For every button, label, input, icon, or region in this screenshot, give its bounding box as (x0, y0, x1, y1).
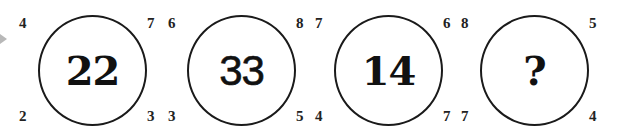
bottom-left-number: 7 (461, 109, 469, 124)
top-right-number: 8 (296, 16, 304, 31)
top-right-number: 7 (147, 16, 155, 31)
bottom-right-number: 7 (443, 109, 451, 124)
triangle-right-icon (0, 34, 7, 44)
top-left-number: 4 (19, 16, 27, 31)
circle-4: 8 5 ? 7 4 (461, 0, 611, 139)
top-right-number: 5 (589, 16, 597, 31)
bottom-left-number: 2 (19, 109, 27, 124)
center-number: 14 (334, 15, 443, 126)
number-circle-puzzle: 4 7 22 2 3 6 8 33 3 5 7 6 14 4 7 8 5 ? 7… (0, 0, 619, 139)
center-number: 33 (187, 15, 296, 126)
center-number: 22 (38, 15, 147, 126)
circle-2: 6 8 33 3 5 (168, 0, 318, 139)
top-right-number: 6 (443, 16, 451, 31)
bottom-left-number: 4 (315, 109, 323, 124)
bottom-right-number: 3 (147, 109, 155, 124)
bottom-right-number: 4 (589, 109, 597, 124)
top-left-number: 7 (315, 16, 323, 31)
circle-3: 7 6 14 4 7 (315, 0, 465, 139)
bottom-left-number: 3 (168, 109, 176, 124)
missing-number-question-mark: ? (480, 15, 589, 126)
top-left-number: 6 (168, 16, 176, 31)
circle-1: 4 7 22 2 3 (19, 0, 169, 139)
bottom-right-number: 5 (296, 109, 304, 124)
top-left-number: 8 (461, 16, 469, 31)
